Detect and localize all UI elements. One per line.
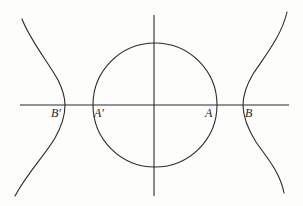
label-b: B xyxy=(245,107,252,119)
diagram-canvas: B′ A′ A B xyxy=(0,0,303,206)
right-curve-branch xyxy=(243,12,287,193)
geometry-figure xyxy=(0,0,303,206)
label-b-prime: B′ xyxy=(51,107,61,119)
label-a: A xyxy=(205,107,212,119)
label-a-prime: A′ xyxy=(94,107,104,119)
